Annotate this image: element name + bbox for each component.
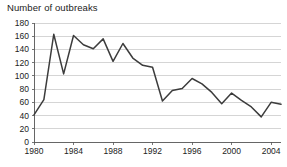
x-tick-label: 1984: [64, 146, 83, 156]
y-tick-label: 120: [15, 58, 29, 68]
chart-container: Number of outbreaks 02040608010012014016…: [0, 0, 287, 167]
y-tick-label: 160: [15, 31, 29, 41]
outbreaks-series-line: [34, 34, 281, 117]
x-axis-tick-labels: 1980198419881992199620002004: [25, 146, 281, 156]
y-tick-label: 140: [15, 44, 29, 54]
y-tick-label: 80: [20, 84, 30, 94]
y-tick-label: 60: [20, 97, 30, 107]
x-tick-label: 1988: [104, 146, 123, 156]
y-axis-tick-labels: 020406080100120140160180: [15, 18, 29, 147]
y-tick-label: 20: [20, 124, 30, 134]
x-tick-label: 1992: [143, 146, 162, 156]
gridlines: [34, 23, 281, 129]
x-tick-label: 1980: [25, 146, 44, 156]
y-tick-label: 180: [15, 18, 29, 28]
x-tick-label: 2000: [222, 146, 241, 156]
y-tick-label: 100: [15, 71, 29, 81]
line-chart-plot: 020406080100120140160180 198019841988199…: [0, 0, 287, 167]
x-tick-label: 1996: [183, 146, 202, 156]
axis-tick-marks: [32, 23, 272, 145]
x-tick-label: 2004: [262, 146, 281, 156]
y-tick-label: 40: [20, 111, 30, 121]
